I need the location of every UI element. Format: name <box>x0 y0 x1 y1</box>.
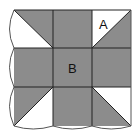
label-b: B <box>68 61 77 76</box>
quilt-block-diagram: A B <box>0 0 140 138</box>
label-a: A <box>99 17 108 32</box>
